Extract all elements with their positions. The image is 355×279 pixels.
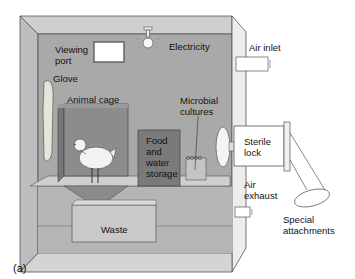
air-inlet-pipe xyxy=(236,57,268,71)
special-attachments-label: Specialattachments xyxy=(283,214,335,236)
special-attachment xyxy=(293,186,332,211)
sterile-lock-door xyxy=(284,122,290,171)
electricity-label: Electricity xyxy=(169,41,210,52)
air-inlet-label: Air inlet xyxy=(249,42,281,53)
air-exhaust-pipe xyxy=(235,207,250,217)
figure-label: (a) xyxy=(13,263,26,274)
food-water-storage-label: Foodandwaterstorage xyxy=(146,135,178,179)
animal-cage-side xyxy=(58,104,64,182)
viewing-port-label: Viewingport xyxy=(55,44,88,66)
waste-label: Waste xyxy=(101,224,128,235)
viewing-port xyxy=(94,42,124,62)
chamber-left-wall xyxy=(20,16,38,272)
glove-shape xyxy=(43,81,53,161)
air-exhaust-label: Airexhaust xyxy=(244,179,277,201)
glove-label: Glove xyxy=(53,73,78,84)
chamber-floor xyxy=(20,253,232,272)
sterile-lock-label: Sterilelock xyxy=(244,136,271,158)
microbial-culture-box xyxy=(186,158,206,180)
animal-cage-label: Animal cage xyxy=(67,94,119,105)
microbial-cultures-label: Microbialcultures xyxy=(180,95,218,117)
sterile-lock-port xyxy=(216,127,230,167)
chamber-top-wall xyxy=(20,16,232,34)
